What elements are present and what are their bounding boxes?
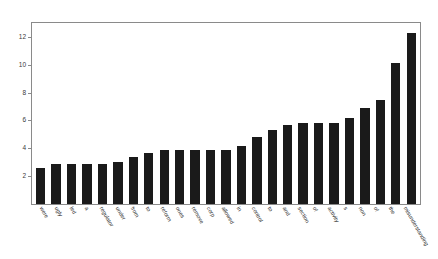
bar [129, 157, 138, 204]
x-axis-tick-label: allowed [220, 206, 234, 225]
x-axis-tick-label: were [38, 206, 49, 219]
x-axis-tick-label: regulator [99, 206, 115, 228]
x-axis-tick-label: of [372, 206, 379, 213]
x-axis-tick-label: led [68, 206, 77, 215]
bar [391, 63, 400, 204]
x-axis-tick-label: from [129, 206, 139, 218]
bar [221, 150, 230, 204]
x-axis-tick-label: reform [159, 206, 172, 223]
bar [252, 137, 261, 204]
bar [144, 153, 153, 205]
x-axis-tick-label: of [311, 206, 318, 213]
bar [82, 164, 91, 204]
bar [407, 33, 416, 204]
bar [98, 164, 107, 204]
bar [360, 108, 369, 204]
x-axis-tick-label: under [114, 206, 126, 221]
x-axis-tick-label: s [342, 206, 348, 211]
bar [160, 150, 169, 204]
bar [268, 130, 277, 204]
bar-chart-figure: 24681012 wereuglyledaregulatorunderfromt… [0, 0, 438, 259]
x-axis-tick-label: and [281, 206, 291, 217]
y-axis-tick-label: 4 [22, 145, 26, 152]
y-axis-tick-label: 6 [22, 117, 26, 124]
x-axis-tick-label: to [266, 206, 273, 213]
bar [206, 150, 215, 204]
y-axis-tick-label: 10 [19, 62, 26, 69]
bar-series [32, 23, 420, 204]
x-axis-tick-label: non [357, 206, 367, 217]
y-axis-tick-label: 12 [19, 34, 26, 41]
x-axis-tick-label: in [235, 206, 242, 213]
x-axis-tick-label: corp [205, 206, 215, 218]
bar [175, 150, 184, 204]
bar [51, 164, 60, 204]
x-axis-tick-label: remove [190, 206, 204, 225]
plot-area: 24681012 [31, 22, 421, 205]
bar [345, 118, 354, 204]
x-axis-tick-label: section [296, 206, 310, 224]
x-axis-tick-label: misunderstanding [403, 206, 430, 247]
x-axis-tick-label: a [83, 206, 89, 212]
bar [237, 146, 246, 204]
y-axis-tick-label: 8 [22, 89, 26, 96]
x-axis-tick-label: to [144, 206, 151, 213]
x-axis-tick-label: ugly [53, 206, 63, 218]
x-axis-tick-label: control [251, 206, 264, 223]
bar [298, 123, 307, 204]
x-axis-tick-label: the [387, 206, 396, 216]
bar [113, 162, 122, 204]
bar [376, 100, 385, 204]
x-axis-tick-label: ones [175, 206, 186, 219]
bar [314, 123, 323, 204]
bar [190, 150, 199, 204]
y-axis-tick-label: 2 [22, 173, 26, 180]
bar [283, 125, 292, 204]
x-axis-tick-labels: wereuglyledaregulatorunderfromtoreformon… [31, 206, 421, 259]
bar [329, 123, 338, 204]
x-axis-tick-label: activity [327, 206, 340, 224]
bar [36, 168, 45, 204]
bar [67, 164, 76, 204]
